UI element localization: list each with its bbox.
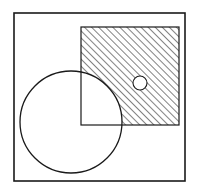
set-diagram [0, 0, 197, 196]
hatched-region [81, 27, 179, 125]
small-circle-set [133, 76, 147, 90]
